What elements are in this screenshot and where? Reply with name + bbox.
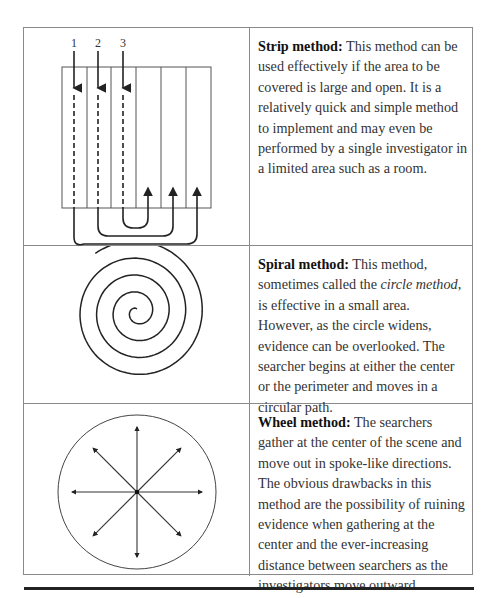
wheel-method-title: Wheel method: — [258, 414, 351, 430]
strip-method-body: This method can be used effectively if t… — [258, 38, 467, 176]
wheel-method-row: Wheel method: The searchers gather at th… — [24, 404, 472, 576]
wheel-method-body: The searchers gather at the center of th… — [258, 414, 465, 593]
strip-method-row: 1 2 3 Strip method: This method can be u… — [24, 28, 472, 246]
wheel-spoke-arrow-icon — [93, 492, 137, 536]
spiral-method-figure — [24, 246, 250, 403]
spiral-method-body-end: , is effective in a small area. However,… — [258, 276, 461, 414]
wheel-spoke-arrow-icon — [137, 448, 181, 492]
wheel-method-figure — [24, 404, 250, 576]
strip-method-description: Strip method: This method can be used ef… — [258, 36, 468, 179]
spiral-diagram-icon — [24, 246, 250, 404]
strip-method-title: Strip method: — [258, 38, 343, 54]
spiral-method-italic-term: circle method — [381, 276, 458, 292]
spiral-method-description: Spiral method: This method, sometimes ca… — [258, 254, 468, 417]
strip-method-figure: 1 2 3 — [24, 28, 250, 245]
strip-label-2: 2 — [95, 36, 101, 50]
strip-label-1: 1 — [71, 36, 77, 50]
strip-label-3: 3 — [120, 36, 126, 50]
spiral-method-row: Spiral method: This method, sometimes ca… — [24, 246, 472, 404]
wheel-spoke-arrow-icon — [93, 448, 137, 492]
wheel-method-description: Wheel method: The searchers gather at th… — [258, 412, 468, 596]
bottom-rule-divider — [24, 587, 474, 590]
spiral-method-title: Spiral method: — [258, 256, 349, 272]
wheel-spoke-arrow-icon — [137, 492, 181, 536]
wheel-diagram-icon — [24, 404, 250, 576]
strip-diagram-icon: 1 2 3 — [24, 28, 250, 246]
search-methods-table: 1 2 3 Strip method: This method can be u… — [23, 27, 473, 575]
